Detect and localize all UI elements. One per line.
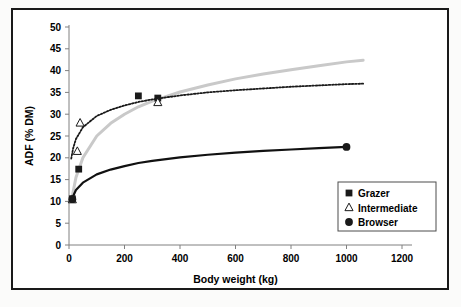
data-point-grazer bbox=[135, 92, 142, 99]
legend-item-grazer[interactable] bbox=[340, 186, 434, 200]
y-axis-tick-label: 15 bbox=[50, 174, 62, 185]
data-point-grazer bbox=[75, 166, 82, 173]
y-axis-tick-label: 40 bbox=[50, 65, 62, 76]
y-axis-tick-label: 5 bbox=[55, 218, 61, 229]
y-axis-tick-label: 25 bbox=[50, 131, 62, 142]
x-axis-tick-label: 1200 bbox=[391, 253, 414, 264]
x-axis-tick-label: 400 bbox=[172, 253, 189, 264]
x-axis-tick-label: 800 bbox=[283, 253, 300, 264]
x-axis-title: Body weight (kg) bbox=[193, 273, 278, 285]
y-axis-tick-label: 35 bbox=[50, 87, 62, 98]
x-axis-tick-label: 600 bbox=[227, 253, 244, 264]
chart-plot-area: 0510152025303540455002004006008001000120… bbox=[13, 10, 447, 288]
trendline-browser bbox=[72, 147, 347, 199]
y-axis-tick-label: 20 bbox=[50, 152, 62, 163]
y-axis-title: ADF (% DM) bbox=[23, 106, 35, 166]
y-axis-tick-label: 30 bbox=[50, 109, 62, 120]
x-axis-tick-label: 200 bbox=[116, 253, 133, 264]
data-point-browser bbox=[343, 143, 351, 151]
legend-item-browser[interactable] bbox=[340, 215, 434, 229]
chart-frame: 0510152025303540455002004006008001000120… bbox=[11, 8, 449, 290]
trendline-grazer bbox=[72, 60, 363, 199]
x-axis-tick-label: 1000 bbox=[335, 253, 358, 264]
data-point-intermediate bbox=[73, 147, 81, 155]
y-axis-tick-label: 50 bbox=[50, 22, 62, 33]
data-point-browser bbox=[68, 195, 76, 203]
x-axis-tick-label: 0 bbox=[66, 253, 72, 264]
y-axis-tick-label: 0 bbox=[55, 240, 61, 251]
figure-canvas: 0510152025303540455002004006008001000120… bbox=[0, 0, 461, 307]
y-axis-tick-label: 10 bbox=[50, 196, 62, 207]
y-axis-tick-label: 45 bbox=[50, 43, 62, 54]
data-point-intermediate bbox=[76, 119, 84, 127]
legend-item-intermediate[interactable] bbox=[340, 201, 434, 215]
